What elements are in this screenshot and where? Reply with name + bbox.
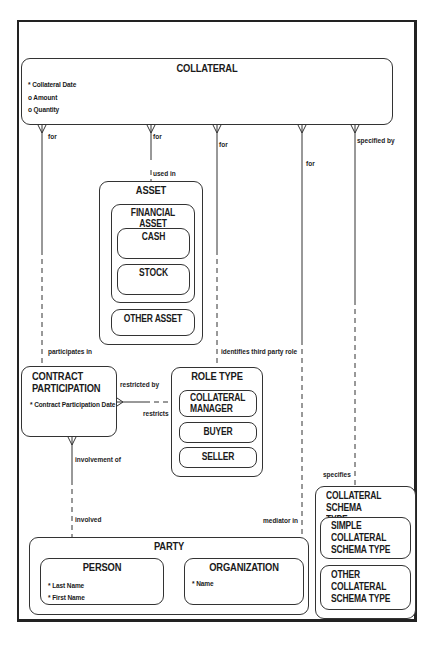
label-involvement-of: involvement of	[75, 456, 121, 463]
entity-contract-participation[interactable]: CONTRACT PARTICIPATION * Contract Partic…	[21, 366, 117, 437]
title-line-1: SIMPLE COLLATERAL	[331, 520, 398, 544]
entity-financial-asset[interactable]: FINANCIAL ASSET CASH STOCK	[111, 204, 195, 303]
title-line-2: SCHEMA TYPE	[331, 593, 398, 605]
entity-collateral-schema-type[interactable]: COLLATERAL SCHEMA TYPE SIMPLE COLLATERAL…	[315, 486, 416, 619]
entity-role-type[interactable]: ROLE TYPE COLLATERAL MANAGER BUYER SELLE…	[171, 367, 263, 477]
label-collateral-for-roletype: for	[219, 141, 228, 148]
attribute-name: * Name	[192, 580, 213, 587]
attribute-quantity: o Quantity	[28, 104, 76, 117]
entity-title: CASH	[123, 231, 183, 242]
entity-other-collateral-schema-type[interactable]: OTHER COLLATERAL SCHEMA TYPE	[320, 565, 411, 610]
entity-title: OTHER COLLATERAL SCHEMA TYPE	[331, 569, 398, 605]
attribute-amount: o Amount	[28, 92, 76, 105]
entity-title: COLLATERAL MANAGER	[190, 392, 246, 414]
title-line-1: OTHER COLLATERAL	[331, 569, 398, 593]
entity-organization[interactable]: ORGANIZATION * Name	[184, 558, 304, 605]
label-restricts: restricts	[143, 410, 169, 417]
label-identifies-third-party-role: identifies third party role	[221, 348, 297, 355]
entity-title: SIMPLE COLLATERAL SCHEMA TYPE	[331, 520, 398, 556]
label-collateral-for-asset: for	[153, 133, 162, 140]
label-mediator-in: mediator in	[263, 517, 298, 524]
label-involved: involved	[75, 516, 101, 523]
entity-collateral-manager[interactable]: COLLATERAL MANAGER	[179, 390, 257, 417]
entity-title: PARTY	[51, 540, 287, 552]
entity-title: ORGANIZATION	[194, 561, 294, 573]
entity-title: PERSON	[50, 561, 154, 573]
entity-title: ASSET	[108, 184, 195, 196]
entity-title: STOCK	[123, 267, 183, 278]
attribute-first-name: * First Name	[48, 592, 85, 604]
attribute-last-name: * Last Name	[48, 580, 85, 592]
title-line-1: CONTRACT	[32, 370, 103, 382]
entity-cash[interactable]: CASH	[117, 228, 190, 259]
title-line-2: PARTICIPATION	[32, 382, 103, 394]
label-specifies: specifies	[323, 471, 351, 478]
entity-title: BUYER	[186, 426, 251, 437]
label-restricted-by: restricted by	[120, 381, 159, 388]
entity-title: FINANCIAL ASSET	[118, 207, 188, 229]
entity-asset[interactable]: ASSET FINANCIAL ASSET CASH STOCK OTHER A…	[99, 181, 203, 345]
label-collateral-for-party: for	[306, 160, 315, 167]
label-used-in: used in	[153, 170, 176, 177]
entity-party[interactable]: PARTY PERSON * Last Name * First Name OR…	[29, 537, 309, 615]
entity-buyer[interactable]: BUYER	[179, 422, 257, 443]
entity-title: SELLER	[186, 451, 251, 462]
title-line-2: SCHEMA TYPE	[331, 544, 398, 556]
title-line-1: COLLATERAL	[190, 392, 246, 403]
entity-collateral[interactable]: COLLATERAL * Collateral Date o Amount o …	[21, 58, 393, 125]
entity-title: OTHER ASSET	[118, 313, 188, 324]
entity-title: ROLE TYPE	[179, 370, 256, 382]
attribute-collateral-date: * Collateral Date	[28, 79, 76, 92]
entity-seller[interactable]: SELLER	[179, 447, 257, 468]
entity-title: COLLATERAL	[50, 62, 365, 74]
title-line-1: COLLATERAL SCHEMA	[326, 490, 402, 514]
attribute-contract-participation-date: * Contract Participation Date	[30, 401, 115, 408]
entity-title: CONTRACT PARTICIPATION	[32, 370, 103, 394]
label-collateral-for-contract: for	[48, 133, 57, 140]
label-participates-in: participates in	[48, 348, 92, 355]
entity-simple-collateral-schema-type[interactable]: SIMPLE COLLATERAL SCHEMA TYPE	[320, 517, 411, 559]
title-line-2: MANAGER	[190, 403, 246, 414]
entity-other-asset[interactable]: OTHER ASSET	[111, 309, 195, 336]
entity-person[interactable]: PERSON * Last Name * First Name	[40, 558, 164, 605]
label-specified-by: specified by	[357, 137, 395, 144]
entity-stock[interactable]: STOCK	[117, 264, 190, 295]
